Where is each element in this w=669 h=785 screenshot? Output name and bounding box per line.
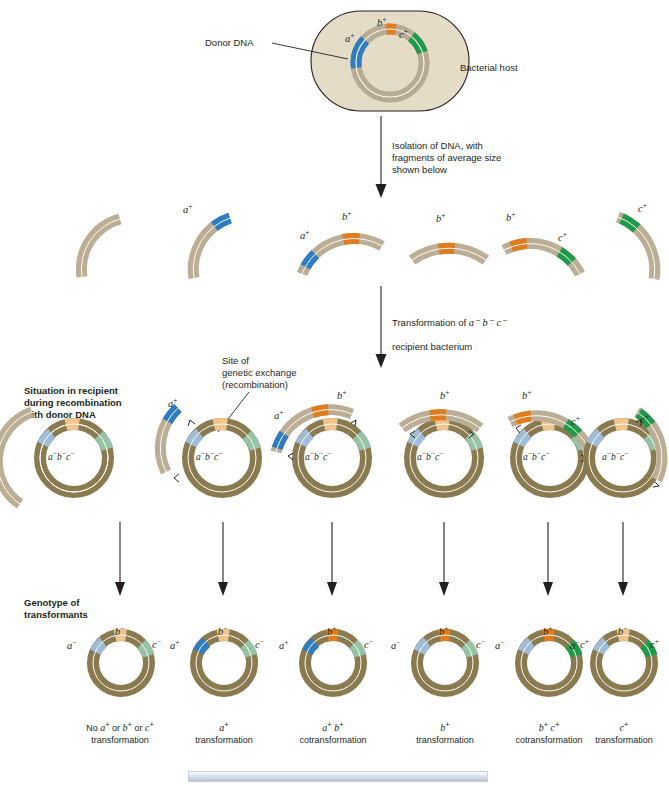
caption-2-line1: a+ — [219, 723, 228, 733]
arrow-col-6 — [616, 522, 630, 600]
donor-marker-b-plus — [386, 28, 395, 30]
geno-1-label-b: b− — [115, 626, 124, 637]
geno-3-label-b: b+ — [327, 626, 336, 637]
caption-2-line2: transformation — [195, 735, 253, 745]
geno-1-label-a: a− — [67, 640, 76, 651]
caption-4-line1: b+ — [440, 723, 449, 733]
row-label-genotype: Genotype of transformants — [24, 597, 144, 621]
arrow-col-3 — [325, 522, 339, 600]
donor-label-b-plus: b+ — [377, 17, 386, 28]
fragment-2 — [178, 212, 240, 284]
geno-4 — [408, 626, 482, 700]
recomb-6-genotype: a−b−c− — [602, 452, 628, 462]
recomb-5-label-c-plus: c+ — [571, 416, 580, 427]
geno-5-label-a: a− — [495, 640, 504, 651]
recomb-5-label-b-plus: b+ — [522, 390, 531, 401]
geno-6 — [587, 626, 661, 700]
bacterial-host-label: Bacterial host — [460, 62, 518, 74]
caption-4-line2: transformation — [416, 735, 474, 745]
fragment-6 — [610, 211, 666, 285]
geno-4-label-c: c− — [476, 639, 485, 650]
recomb-4-genotype: a−b−c− — [417, 452, 443, 462]
fragment-3 — [296, 222, 388, 280]
arrow-transformation — [374, 286, 388, 372]
fragment-4 — [408, 228, 490, 268]
crossover-marker-2b — [188, 420, 195, 426]
step1-text: Isolation of DNA, with fragments of aver… — [392, 140, 552, 176]
step2-genes: a⁻ b⁻ c⁻ — [469, 317, 507, 328]
arrow-col-5 — [541, 522, 555, 600]
recomb-2-label-a-plus: a+ — [168, 398, 177, 409]
geno-3 — [296, 626, 370, 700]
geno-2-label-a: a+ — [170, 640, 179, 651]
bottom-accent-bar — [188, 771, 488, 782]
crossover-marker-2a — [174, 474, 179, 482]
caption-6-line1: c+ — [620, 723, 629, 733]
recomb-3-label-a-plus: a+ — [274, 410, 283, 421]
site-of-exchange-label: Site of genetic exchange (recombination) — [222, 355, 332, 391]
arrow-col-2 — [216, 522, 230, 600]
geno-1 — [84, 626, 158, 700]
fragment-2-label-a-plus: a+ — [183, 204, 192, 215]
geno-3-label-c: c− — [364, 639, 373, 650]
recomb-6-label-c-plus: c+ — [640, 414, 649, 425]
donor-label-c-plus: c+ — [399, 29, 408, 40]
recomb-3 — [268, 400, 398, 515]
fragment-5 — [500, 222, 592, 280]
recomb-3-label-b-plus: b+ — [337, 390, 346, 401]
geno-3-label-a: a+ — [279, 640, 288, 651]
step2-line1-prefix: Transformation of — [392, 317, 469, 328]
geno-2 — [187, 626, 261, 700]
fragment-6-label-c-plus: c+ — [638, 203, 647, 214]
fragment-5-label-b-plus: b+ — [506, 212, 515, 223]
caption-1-line1: No a+ or b+ or c+ — [86, 723, 154, 733]
caption-3: a+ b+ cotransformation — [270, 722, 396, 746]
step2-line2: recipient bacterium — [392, 341, 472, 352]
recomb-4-label-b-plus: b+ — [440, 390, 449, 401]
caption-5-line1: b+ c+ — [539, 723, 560, 733]
recomb-2-genotype: a−b−c− — [196, 452, 222, 462]
arrow-isolation — [374, 116, 388, 202]
fragment-3-label-b-plus: b+ — [342, 211, 351, 222]
geno-2-label-c: c− — [255, 639, 264, 650]
arrow-col-1 — [113, 522, 127, 600]
geno-6-label-b: b− — [618, 626, 627, 637]
donor-fragment-2 — [160, 408, 178, 472]
caption-6-line2: transformation — [595, 735, 653, 745]
donor-dna-leader-line — [272, 40, 352, 62]
recomb-3-genotype: a−b−c− — [305, 452, 331, 462]
geno-4-label-b: b+ — [439, 626, 448, 637]
geno-6-label-a: a− — [570, 640, 579, 651]
fragment-4-label-b-plus: b+ — [436, 213, 445, 224]
donor-dna-label: Donor DNA — [205, 37, 254, 49]
geno-6-label-c: c+ — [650, 639, 659, 650]
fragment-1 — [72, 215, 134, 285]
geno-2-label-b: b− — [218, 626, 227, 637]
caption-6: c+ transformation — [566, 722, 669, 746]
caption-2: a+ transformation — [166, 722, 282, 746]
fragment-5-label-c-plus: c+ — [558, 232, 567, 243]
geno-1-label-c: c− — [152, 639, 161, 650]
fragment-3-label-a-plus: a+ — [300, 230, 309, 241]
step2-text: Transformation of a⁻ b⁻ c⁻ recipient bac… — [392, 305, 567, 353]
figure-canvas: a+ b+ c+ Donor DNA Bacterial host Isolat… — [0, 0, 669, 785]
caption-1: No a+ or b+ or c+ transformation — [60, 722, 180, 746]
caption-1-line2: transformation — [91, 735, 149, 745]
caption-3-line1: a+ b+ — [322, 723, 343, 733]
geno-5-label-b: b+ — [543, 626, 552, 637]
recomb-1-genotype: a−b−c− — [48, 452, 74, 462]
arrow-col-4 — [437, 522, 451, 600]
geno-4-label-a: a− — [391, 640, 400, 651]
caption-3-line2: cotransformation — [299, 735, 366, 745]
recomb-5-genotype: a−b−c− — [523, 452, 549, 462]
